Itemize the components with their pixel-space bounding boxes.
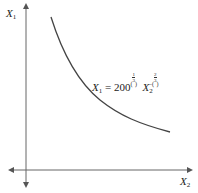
eq-lhs-sub: 1 <box>99 87 103 95</box>
eq-rhs-exponent: −(23) <box>149 81 159 87</box>
eq-coef-exponent: (13) <box>130 81 137 87</box>
x-axis-var: X <box>180 175 187 187</box>
eq-coefficient: 200 <box>114 81 131 93</box>
eq-lhs-var: X <box>92 81 99 93</box>
paren-close: ) <box>135 81 137 87</box>
y-axis-label: X1 <box>6 8 16 21</box>
x-axis-sub: 2 <box>187 181 191 189</box>
paren-close: ) <box>157 81 159 87</box>
eq-equals: = <box>105 81 111 93</box>
y-axis-var: X <box>6 7 13 19</box>
x-axis-label: X2 <box>180 176 190 189</box>
y-axis-sub: 1 <box>13 13 17 21</box>
isoquant-diagram <box>0 0 198 193</box>
isoquant-equation: X1 = 200(13) X2−(23) <box>92 72 159 95</box>
eq-rhs-sub: 2 <box>149 87 153 95</box>
